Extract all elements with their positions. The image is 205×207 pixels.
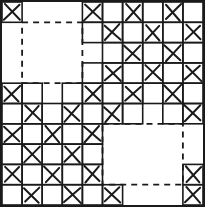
x-mark-r9-c9	[185, 187, 200, 203]
cell-link-r2-c9	[183, 43, 203, 63]
x-mark-r7-c1	[24, 146, 40, 163]
x-mark-r1-c9	[186, 25, 201, 40]
cell-link-r6-c3	[62, 124, 82, 144]
x-mark-r0-c8	[166, 4, 181, 21]
cell-link-r5-c4	[82, 104, 102, 124]
x-mark-r2-c6	[124, 46, 140, 61]
cell-link-r8-c3	[62, 164, 82, 184]
cell-link-r1-c4	[82, 22, 102, 42]
cell-link-r8-c1	[22, 164, 42, 184]
cell-link-r3-c8	[163, 63, 183, 83]
x-mark-r1-c5	[105, 24, 121, 40]
x-mark-r4-c6	[125, 87, 141, 101]
x-mark-r3-c7	[145, 65, 161, 80]
x-mark-r8-c2	[44, 167, 60, 183]
x-stroke-a	[186, 66, 201, 81]
cell-link-r2-c5	[103, 43, 123, 63]
x-mark-r5-c3	[64, 105, 79, 122]
x-mark-r5-c9	[184, 105, 200, 121]
x-stroke-b	[25, 188, 39, 202]
cell-link-r6-c1	[22, 124, 42, 144]
cell-link-r0-c5	[103, 2, 123, 22]
x-mark-r2-c8	[164, 45, 181, 61]
cell-link-r9-c2	[42, 185, 62, 205]
cell-link-r5-c6	[123, 104, 143, 124]
x-mark-r8-c9	[186, 166, 201, 182]
x-mark-r9-c3	[64, 186, 81, 203]
x-mark-r6-c4	[84, 126, 101, 143]
cell-link-r4-c5	[103, 83, 123, 103]
top-left-dashed-square	[22, 22, 82, 83]
cell-link-r4-c9	[183, 83, 203, 103]
x-mark-r9-c1	[24, 188, 39, 203]
x-mark-r5-c1	[25, 106, 40, 122]
cell-link-r1-c8	[163, 22, 183, 42]
cell-link-r3-c4	[82, 63, 102, 83]
x-mark-r4-c0	[4, 86, 20, 102]
x-mark-r9-c5	[105, 187, 121, 202]
cell-link-r7-c4	[82, 144, 102, 164]
x-mark-r8-c4	[84, 166, 99, 183]
x-mark-r0-c4	[84, 4, 101, 20]
grid-figure	[0, 0, 205, 207]
x-mark-r3-c9	[185, 66, 202, 81]
cell-link-r4-c1	[22, 83, 42, 103]
cell-link-r5-c0	[2, 104, 22, 124]
x-mark-r8-c0	[5, 167, 21, 182]
cell-link-r9-c4	[82, 185, 102, 205]
x-mark-r6-c2	[45, 126, 60, 143]
x-stroke-a	[105, 188, 120, 202]
x-mark-r0-c6	[126, 4, 141, 21]
cell-link-r4-c3	[62, 83, 82, 103]
x-mark-r4-c4	[85, 86, 101, 102]
grid-figure-canvas	[0, 0, 205, 207]
cell-link-r5-c2	[42, 104, 62, 124]
x-mark-r1-c7	[146, 25, 160, 40]
x-mark-r7-c3	[64, 146, 79, 162]
cell-link-r5-c8	[163, 104, 183, 124]
cell-link-r9-c0	[2, 185, 22, 205]
x-mark-r3-c5	[105, 66, 121, 81]
cell-link-r7-c0	[2, 144, 22, 164]
cell-link-r3-c6	[123, 63, 143, 83]
x-mark-r6-c0	[4, 127, 20, 142]
cell-link-r0-c9	[183, 2, 203, 22]
x-mark-r0-c0	[4, 4, 20, 20]
x-mark-r4-c8	[164, 85, 181, 102]
cell-link-r0-c7	[143, 2, 163, 22]
cell-link-r4-c7	[143, 83, 163, 103]
cell-link-r2-c7	[143, 43, 163, 63]
bottom-right-dashed-square	[103, 124, 183, 185]
cell-link-r1-c6	[123, 22, 143, 42]
x-mark-r5-c5	[104, 105, 119, 122]
cell-link-r7-c2	[42, 144, 62, 164]
